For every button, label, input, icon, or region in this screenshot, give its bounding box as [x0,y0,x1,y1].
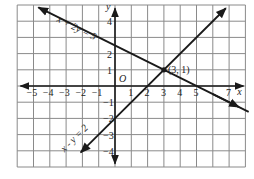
x-tick-label: 3 [161,87,166,98]
axes [20,8,243,164]
x-tick-label: 2 [145,87,150,98]
x-tick-label: 5 [194,87,199,98]
x-tick-label: −4 [43,87,54,98]
x-axis-label: x [236,86,242,97]
y-tick-label: −4 [103,146,114,157]
x-tick-label: 1 [128,87,133,98]
y-axis-label: y [105,1,111,12]
x-tick-label: 7 [226,87,231,98]
intersection-point [161,67,166,72]
y-tick-label: −1 [103,97,114,108]
intersection-label: (3, 1) [168,64,190,76]
x-tick-label: 4 [177,87,182,98]
y-tick-label: 2 [107,49,112,60]
coordinate-graph: (3, 1)−5−4−3−2−1123457421−1−2−3−4xyOx + … [0,0,254,179]
x-tick-label: −2 [75,87,86,98]
x-tick-label: −1 [92,87,103,98]
y-tick-label: −3 [103,130,114,141]
x-tick-label: −5 [27,87,38,98]
y-tick-label: −2 [103,113,114,124]
equation-label-line-2: x - y = 2 [57,122,90,155]
origin-label: O [119,73,126,84]
y-tick-label: 1 [107,65,112,76]
x-tick-label: −3 [59,87,70,98]
y-tick-label: 4 [107,16,112,27]
